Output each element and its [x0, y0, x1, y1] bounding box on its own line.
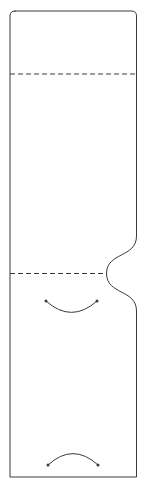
thumb-notch-arc-lower-end-dot — [97, 464, 100, 467]
dieline-drawing — [0, 0, 147, 488]
figure-background — [0, 0, 147, 488]
thumb-notch-arc-upper-end-dot — [96, 300, 99, 303]
dieline-figure — [0, 0, 147, 488]
thumb-notch-arc-lower-start-dot — [47, 464, 50, 467]
thumb-notch-arc-upper-start-dot — [45, 300, 48, 303]
